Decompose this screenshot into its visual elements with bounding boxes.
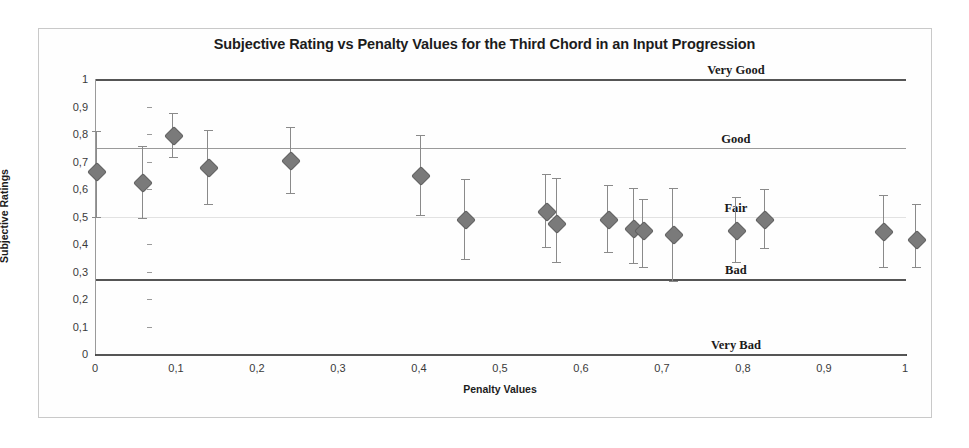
- error-bar-cap-bottom: [461, 259, 470, 260]
- x-tick-label: 0,6: [573, 362, 588, 374]
- error-bar-cap-top: [286, 127, 295, 128]
- y-axis-tick-labels: 00,10,20,30,40,50,60,70,80,91: [58, 79, 88, 354]
- x-tick-label: 0,1: [168, 362, 183, 374]
- error-bar-cap-bottom: [416, 215, 425, 216]
- y-tick-label: 0,4: [73, 238, 88, 250]
- error-bar-cap-bottom: [138, 218, 147, 219]
- y-axis-title: Subjective Ratings: [0, 169, 10, 263]
- reference-line-good: [96, 148, 906, 149]
- reference-line-fair: [96, 217, 906, 218]
- error-bar-cap-top: [92, 131, 101, 132]
- error-bar-cap-bottom: [204, 204, 213, 205]
- y-tick-label: 0,1: [73, 321, 88, 333]
- y-tick-label: 0,3: [73, 266, 88, 278]
- y-tick-label: 0,9: [73, 101, 88, 113]
- marker-diamond-icon: [164, 126, 184, 146]
- category-label-very-good: Very Good: [707, 63, 765, 78]
- category-label-bad: Bad: [725, 263, 747, 278]
- category-label-good: Good: [721, 132, 750, 147]
- x-axis-title: Penalty Values: [95, 383, 905, 395]
- error-bar-cap-bottom: [542, 247, 551, 248]
- marker-diamond-icon: [599, 210, 619, 230]
- marker-diamond-icon: [456, 210, 476, 230]
- error-bar-cap-top: [604, 185, 613, 186]
- error-bar-cap-top: [169, 113, 178, 114]
- error-bar-cap-bottom: [639, 267, 648, 268]
- x-tick-label: 0,7: [654, 362, 669, 374]
- error-bar-cap-bottom: [92, 217, 101, 218]
- error-bar-cap-top: [416, 135, 425, 136]
- error-bar-cap-bottom: [629, 263, 638, 264]
- marker-diamond-icon: [755, 210, 775, 230]
- marker-diamond-icon: [281, 151, 301, 171]
- error-bar-cap-top: [629, 188, 638, 189]
- error-bar-cap-top: [732, 197, 741, 198]
- y-tick-label: 0: [82, 348, 88, 360]
- plot-area: Very GoodGoodFairBadVery Bad: [95, 79, 905, 354]
- reference-line-very-good: [96, 79, 906, 81]
- x-tick-label: 0,5: [492, 362, 507, 374]
- error-bar-cap-bottom: [552, 262, 561, 263]
- marker-diamond-icon: [199, 158, 219, 178]
- error-bar-cap-top: [542, 174, 551, 175]
- error-bar-cap-bottom: [879, 267, 888, 268]
- x-tick-label: 1: [902, 362, 908, 374]
- page-title: Subjective Rating vs Penalty Values for …: [0, 36, 969, 52]
- marker-diamond-icon: [133, 173, 153, 193]
- x-tick-label: 0,9: [816, 362, 831, 374]
- error-bar-cap-top: [461, 179, 470, 180]
- error-bar-cap-top: [669, 188, 678, 189]
- y-tick-label: 0,5: [73, 211, 88, 223]
- error-bar-cap-bottom: [912, 267, 921, 268]
- marker-diamond-icon: [727, 221, 747, 241]
- error-bar-cap-top: [879, 195, 888, 196]
- marker-diamond-icon: [664, 225, 684, 245]
- marker-diamond-icon: [874, 222, 894, 242]
- x-tick-label: 0,3: [330, 362, 345, 374]
- error-bar-cap-top: [760, 189, 769, 190]
- x-tick-label: 0,8: [735, 362, 750, 374]
- error-bar-cap-top: [552, 178, 561, 179]
- error-bar-cap-bottom: [169, 157, 178, 158]
- y-tick-label: 0,8: [73, 128, 88, 140]
- error-bar-cap-bottom: [732, 262, 741, 263]
- y-tick-label: 0,2: [73, 293, 88, 305]
- x-tick-label: 0: [92, 362, 98, 374]
- error-bar-cap-top: [912, 204, 921, 205]
- y-tick-label: 1: [82, 73, 88, 85]
- x-tick-label: 0,2: [249, 362, 264, 374]
- reference-line-very-bad: [96, 354, 906, 356]
- error-bar-cap-bottom: [604, 252, 613, 253]
- error-bar-cap-bottom: [760, 248, 769, 249]
- y-tick-label: 0,6: [73, 183, 88, 195]
- error-bar-cap-bottom: [669, 281, 678, 282]
- reference-line-bad: [96, 279, 906, 281]
- x-tick-label: 0,4: [411, 362, 426, 374]
- error-bar-cap-top: [204, 130, 213, 131]
- error-bar-cap-bottom: [286, 193, 295, 194]
- error-bar-cap-top: [639, 199, 648, 200]
- category-label-very-bad: Very Bad: [711, 338, 761, 353]
- error-bar-cap-top: [138, 146, 147, 147]
- y-tick-label: 0,7: [73, 156, 88, 168]
- marker-diamond-icon: [411, 166, 431, 186]
